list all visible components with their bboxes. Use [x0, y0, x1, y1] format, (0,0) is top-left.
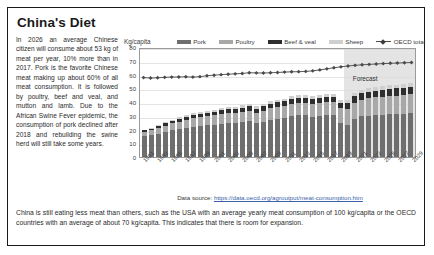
y-axis-unit-label: Kg/capita	[124, 38, 151, 45]
legend-item-pork: Pork	[177, 38, 206, 45]
y-tick-0: 0	[124, 155, 136, 161]
legend-swatch-sheep	[329, 40, 343, 44]
legend-item-beef: Beef & veal	[268, 38, 316, 45]
meat-consumption-chart: Kg/capita Pork Poultry Beef & veal	[124, 35, 418, 195]
legend-item-sheep: Sheep	[329, 38, 363, 45]
legend-item-poultry: Poultry	[219, 38, 255, 45]
legend-swatch-poultry	[219, 40, 233, 44]
x-axis-labels: 1991199319951997199920012003200520072009…	[139, 159, 416, 189]
intro-text-column: In 2026 an average Chinese citizen will …	[16, 35, 120, 148]
y-tick-20: 20	[124, 128, 136, 134]
y-tick-40: 40	[124, 100, 136, 106]
legend-swatch-beef	[268, 40, 282, 44]
y-tick-50: 50	[124, 86, 136, 92]
y-tick-80: 80	[124, 45, 136, 51]
plot-canvas: Forecast	[139, 48, 416, 158]
data-source-label: Data source:	[177, 194, 214, 201]
data-source: Data source: https://data.oecd.org/agrou…	[124, 194, 416, 201]
conclusion-text: China is still eating less meat than oth…	[16, 208, 416, 227]
legend-label-poultry: Poultry	[235, 38, 254, 45]
infographic-card: China's Diet In 2026 an average Chinese …	[7, 7, 425, 246]
plot-area: 01020304050607080 Forecast 1991199319951…	[124, 48, 418, 158]
legend-line-oecd-total	[376, 39, 391, 44]
legend-label-beef: Beef & veal	[284, 38, 316, 45]
page-title: China's Diet	[17, 15, 416, 30]
legend-item-oecd-total: OECD total	[376, 38, 425, 45]
legend-swatch-pork	[177, 40, 191, 44]
forecast-annotation: Forecast	[353, 75, 378, 82]
legend-label-oecd-total: OECD total	[394, 38, 425, 45]
y-tick-60: 60	[124, 73, 136, 79]
conclusion-paragraph: China is still eating less meat than oth…	[16, 208, 416, 227]
chart-column: Kg/capita Pork Poultry Beef & veal	[124, 35, 418, 195]
oecd-total-line	[140, 49, 415, 157]
y-tick-10: 10	[124, 141, 136, 147]
legend-label-sheep: Sheep	[345, 38, 363, 45]
chart-legend: Kg/capita Pork Poultry Beef & veal	[124, 35, 418, 48]
content-columns: In 2026 an average Chinese citizen will …	[16, 35, 416, 195]
legend-label-pork: Pork	[193, 38, 206, 45]
y-tick-70: 70	[124, 59, 136, 65]
data-source-link[interactable]: https://data.oecd.org/agroutput/meat-con…	[214, 194, 363, 201]
y-tick-30: 30	[124, 114, 136, 120]
intro-paragraph: In 2026 an average Chinese citizen will …	[16, 35, 118, 148]
